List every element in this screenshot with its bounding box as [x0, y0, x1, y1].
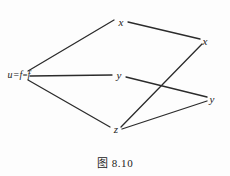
- node-z-bottom: z: [114, 124, 118, 135]
- figure-container: u=f=fxyzxy 图 8.10: [0, 0, 230, 176]
- edge-z-bottom-to-y-right: [122, 101, 207, 129]
- graph-canvas: [0, 0, 230, 176]
- node-root-u-equals-f: u=f=f: [8, 70, 31, 80]
- node-x-top: x: [119, 17, 124, 28]
- edge-root-to-x-top: [28, 20, 114, 71]
- figure-caption: 图 8.10: [0, 154, 230, 170]
- node-label-lhs: u=f: [8, 69, 23, 80]
- edge-x-top-to-x-right: [128, 22, 200, 39]
- node-y-middle: y: [117, 70, 122, 81]
- node-x-right: x: [203, 36, 208, 47]
- node-y-right: y: [210, 94, 215, 105]
- edge-z-bottom-to-x-right: [121, 44, 202, 127]
- edge-root-to-y-middle: [30, 75, 112, 76]
- edge-root-to-z-bottom: [28, 80, 110, 127]
- node-label-rhs: f: [28, 69, 31, 80]
